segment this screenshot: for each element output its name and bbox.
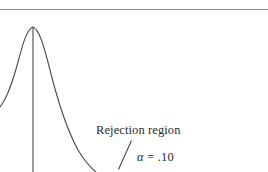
alpha-symbol: α xyxy=(137,150,144,164)
normal-distribution-curve xyxy=(0,27,98,172)
rejection-region-label: Rejection region xyxy=(96,124,181,137)
distribution-chart-svg xyxy=(0,0,268,172)
equals-sign: = xyxy=(144,150,158,164)
rejection-region-leader xyxy=(119,141,132,170)
statistics-figure: Rejection region α = .10 xyxy=(0,0,268,172)
alpha-level-label: α = .10 xyxy=(137,151,174,164)
alpha-value: .10 xyxy=(158,150,174,164)
